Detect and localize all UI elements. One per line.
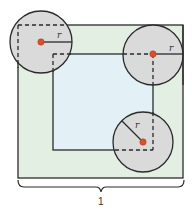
circle-bottom-right: r: [113, 112, 173, 172]
radius-label: r: [169, 43, 174, 53]
center-dot: [140, 139, 146, 145]
circle-top-left: r: [10, 11, 72, 73]
circle-top-right: r: [123, 25, 183, 85]
diagram-canvas: r r r 1: [0, 0, 192, 212]
center-dot: [38, 39, 44, 45]
radius-label: r: [135, 120, 140, 130]
radius-label: r: [57, 30, 62, 40]
center-dot: [150, 51, 156, 57]
width-brace: [18, 180, 184, 192]
width-label: 1: [98, 196, 104, 207]
